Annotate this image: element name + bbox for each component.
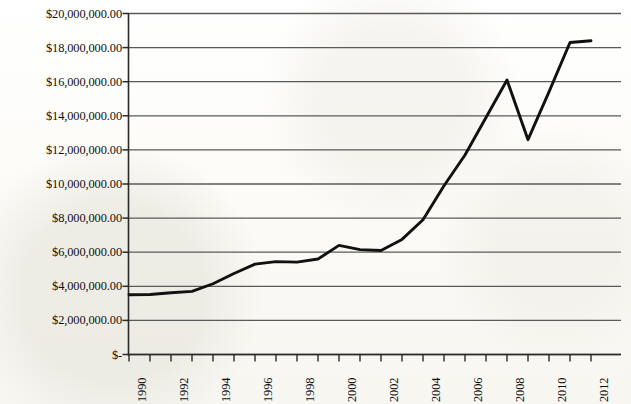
plot-area [0,0,631,404]
y-axis-tick-marks [123,14,129,355]
gridlines [129,14,622,355]
line-chart: $-$2,000,000.00$4,000,000.00$6,000,000.0… [0,0,631,404]
x-axis-tick-marks [129,355,591,362]
data-series-line [129,41,591,295]
